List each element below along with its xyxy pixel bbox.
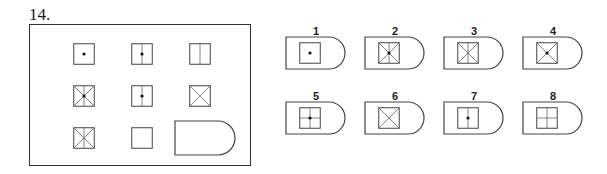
option-7[interactable]: 7	[443, 90, 505, 136]
option-figure	[364, 36, 426, 70]
option-figure	[364, 101, 426, 135]
missing-answer-slot	[174, 120, 236, 156]
matrix-box	[29, 24, 251, 166]
matrix-cell-r3c1	[73, 127, 95, 149]
option-figure	[443, 36, 505, 70]
option-figure	[443, 101, 505, 135]
option-6[interactable]: 6	[364, 90, 426, 136]
option-figure	[285, 101, 347, 135]
matrix-cell-r1c2	[131, 43, 153, 65]
question-number: 14.	[29, 5, 50, 25]
option-figure	[522, 36, 584, 70]
matrix-cell-r3c2	[131, 127, 153, 149]
option-2[interactable]: 2	[364, 25, 426, 71]
option-5[interactable]: 5	[285, 90, 347, 136]
matrix-cell-r2c2	[131, 85, 153, 107]
option-4[interactable]: 4	[522, 25, 584, 71]
option-8[interactable]: 8	[522, 90, 584, 136]
matrix-cell-r1c3	[189, 43, 211, 65]
option-1[interactable]: 1	[285, 25, 347, 71]
option-figure	[285, 36, 347, 70]
matrix-cell-r2c1	[73, 85, 95, 107]
option-figure	[522, 101, 584, 135]
option-3[interactable]: 3	[443, 25, 505, 71]
matrix-cell-r1c1	[73, 43, 95, 65]
matrix-cell-r2c3	[189, 85, 211, 107]
